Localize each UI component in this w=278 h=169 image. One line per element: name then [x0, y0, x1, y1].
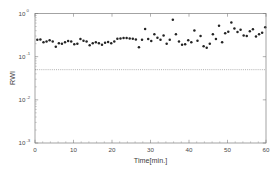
- data-point: [128, 37, 131, 40]
- data-point: [88, 44, 91, 47]
- data-point: [162, 34, 165, 37]
- plot-background: [35, 14, 266, 144]
- y-tick-label-exponent: -2: [26, 95, 30, 100]
- data-point: [249, 30, 252, 33]
- data-point: [227, 30, 230, 33]
- data-point: [39, 38, 42, 41]
- y-tick-label-base: 10: [19, 139, 26, 146]
- data-point: [48, 39, 51, 42]
- data-point: [82, 39, 85, 42]
- data-point: [64, 41, 67, 44]
- data-point: [119, 37, 122, 40]
- data-point: [45, 40, 48, 43]
- data-point: [42, 41, 45, 44]
- x-tick-label: 10: [70, 146, 77, 153]
- data-point: [187, 39, 190, 42]
- data-point: [98, 42, 101, 45]
- x-axis-tick-labels: 0102030405060: [33, 146, 270, 153]
- y-tick-label-exponent: 0: [26, 8, 29, 13]
- data-point: [159, 39, 162, 42]
- data-point: [61, 42, 64, 45]
- data-point: [236, 31, 239, 34]
- data-point: [212, 33, 215, 36]
- data-point: [104, 42, 107, 45]
- data-point: [255, 35, 257, 38]
- y-tick-label-exponent: -1: [26, 51, 30, 56]
- x-tick-label: 30: [147, 146, 154, 153]
- chart-figure: 0102030405060 10010-110-210-3 Time[min.]…: [0, 0, 278, 169]
- data-point: [258, 33, 261, 36]
- x-tick-label: 40: [186, 146, 193, 153]
- y-tick-label-base: 10: [19, 10, 26, 17]
- data-point: [150, 40, 153, 43]
- data-point: [156, 36, 159, 39]
- data-point: [169, 39, 172, 42]
- scatter-plot-svg: 0102030405060 10010-110-210-3 Time[min.]…: [0, 0, 278, 169]
- data-point: [178, 40, 181, 43]
- data-point: [221, 41, 224, 44]
- data-point: [205, 47, 208, 50]
- data-point: [239, 29, 242, 32]
- data-point: [67, 40, 70, 43]
- data-point: [202, 45, 205, 48]
- data-point: [116, 38, 119, 41]
- data-point: [196, 39, 199, 42]
- data-point: [218, 25, 221, 28]
- y-tick-label-base: 10: [19, 53, 26, 60]
- data-point: [85, 40, 88, 43]
- data-point: [153, 33, 156, 36]
- data-point: [110, 42, 113, 45]
- data-point: [147, 38, 150, 41]
- data-point: [242, 34, 245, 37]
- data-point: [144, 28, 147, 31]
- data-point: [190, 41, 193, 44]
- data-point: [209, 42, 212, 45]
- data-point: [125, 37, 128, 40]
- data-point: [252, 28, 255, 31]
- data-point: [107, 41, 110, 44]
- data-point: [79, 38, 82, 41]
- data-point: [172, 18, 175, 21]
- data-point: [199, 35, 202, 38]
- x-axis-label: Time[min.]: [134, 156, 167, 165]
- data-point: [181, 43, 184, 46]
- x-tick-label: 0: [33, 146, 37, 153]
- x-tick-label: 50: [224, 146, 231, 153]
- data-point: [122, 37, 125, 40]
- data-point: [36, 39, 39, 42]
- data-point: [215, 38, 218, 41]
- y-tick-label-base: 10: [19, 96, 26, 103]
- data-point: [73, 43, 76, 46]
- data-point: [51, 40, 54, 43]
- data-point: [135, 38, 138, 41]
- data-point: [141, 39, 144, 42]
- data-point: [224, 32, 227, 35]
- data-point: [92, 42, 95, 45]
- data-point: [58, 42, 61, 45]
- x-tick-label: 20: [109, 146, 116, 153]
- data-point: [165, 42, 168, 45]
- data-point: [76, 42, 79, 45]
- data-point: [95, 41, 98, 44]
- data-point: [132, 38, 135, 41]
- data-point: [101, 43, 104, 46]
- data-point: [246, 35, 249, 38]
- data-point: [261, 31, 264, 34]
- data-point: [193, 29, 196, 32]
- data-point: [113, 40, 116, 43]
- y-axis-tick-labels: 10010-110-210-3: [19, 8, 31, 146]
- data-point: [138, 46, 141, 49]
- y-tick-label-exponent: -3: [26, 138, 30, 143]
- data-point: [175, 33, 178, 36]
- data-point: [230, 21, 233, 24]
- x-tick-label: 60: [263, 146, 270, 153]
- y-axis-label: RWI: [8, 71, 17, 85]
- data-point: [55, 45, 58, 48]
- data-point: [233, 27, 236, 30]
- data-point: [70, 40, 73, 43]
- data-point: [184, 43, 187, 46]
